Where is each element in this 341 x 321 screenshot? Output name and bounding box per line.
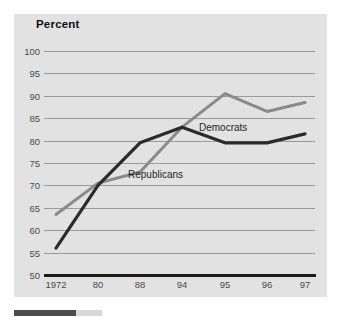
democrats-line bbox=[56, 94, 305, 215]
democrats-series-label: Democrats bbox=[199, 122, 247, 133]
x-tick-label: 88 bbox=[120, 279, 160, 290]
chart-figure: Percent 100 95 90 85 80 75 70 65 60 55 5… bbox=[0, 0, 341, 321]
y-tick-label: 95 bbox=[14, 68, 40, 79]
x-axis-line bbox=[44, 274, 316, 277]
x-tick-label: 95 bbox=[205, 279, 245, 290]
y-tick-label: 85 bbox=[14, 113, 40, 124]
chart-title: Percent bbox=[36, 18, 80, 30]
plot-area bbox=[44, 51, 315, 275]
y-tick-label: 80 bbox=[14, 135, 40, 146]
republicans-series-label: Republicans bbox=[128, 169, 183, 180]
x-tick-label: 94 bbox=[162, 279, 202, 290]
x-tick-label: 96 bbox=[247, 279, 287, 290]
y-tick-label: 100 bbox=[14, 46, 40, 57]
y-tick-label: 70 bbox=[14, 180, 40, 191]
y-tick-label: 55 bbox=[14, 247, 40, 258]
series-lines bbox=[44, 51, 315, 275]
x-tick-label: 1972 bbox=[36, 279, 76, 290]
y-tick-label: 60 bbox=[14, 225, 40, 236]
y-tick-label: 75 bbox=[14, 158, 40, 169]
x-tick-label: 80 bbox=[78, 279, 118, 290]
y-tick-label: 90 bbox=[14, 90, 40, 101]
y-tick-label: 65 bbox=[14, 202, 40, 213]
footer-rule-light bbox=[76, 310, 102, 316]
x-tick-label: 97 bbox=[285, 279, 325, 290]
footer-rule bbox=[14, 310, 76, 316]
